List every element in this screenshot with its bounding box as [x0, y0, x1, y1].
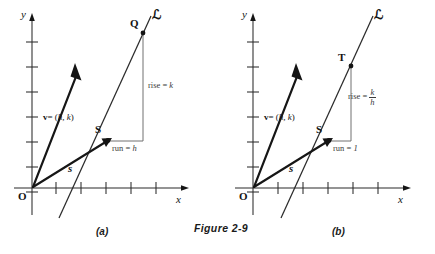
x-axis-b: [235, 182, 411, 194]
rise-annotation-a: rise = k: [148, 80, 173, 90]
x-axis-label-a: x: [175, 193, 181, 205]
rise-annotation-b: rise = kh: [348, 88, 376, 106]
rise-fraction-b: kh: [369, 88, 375, 106]
figure-2-9: y x O ℒ: [0, 0, 435, 254]
origin-label-a: O: [18, 190, 27, 202]
vector-v-b: [254, 63, 303, 187]
line-L-label-b: ℒ: [374, 7, 384, 22]
vector-v-label-b: v= (h, k): [264, 112, 295, 122]
point-T-label-b: T: [338, 51, 346, 63]
x-axis-a: [14, 182, 189, 194]
vector-s-b: [254, 138, 333, 187]
run-annotation-b: run = 1: [333, 143, 358, 153]
point-S-b: [327, 138, 332, 143]
vector-s-label-a: s: [67, 162, 72, 174]
run-annotation-a: run = h: [112, 143, 137, 153]
sublabel-b: (b): [332, 226, 345, 237]
vector-v-label-a: v= (h, k): [43, 112, 74, 122]
point-T-b: [349, 64, 354, 69]
vector-v-a: [33, 63, 82, 187]
point-Q-label-a: Q: [130, 17, 139, 29]
rise-annotation-b-prefix: rise =: [348, 91, 369, 101]
point-Q-a: [141, 31, 146, 36]
vector-s-a: [33, 138, 112, 187]
point-S-label-b: S: [316, 123, 322, 135]
origin-label-b: O: [239, 190, 248, 202]
sublabel-a: (a): [96, 226, 108, 237]
y-axis-label-b: y: [241, 8, 247, 20]
y-axis-label-a: y: [20, 8, 26, 20]
vector-s-label-b: s: [288, 162, 293, 174]
x-axis-label-b: x: [397, 193, 403, 205]
rise-fraction-denominator-b: h: [369, 98, 375, 107]
point-S-label-a: S: [95, 123, 101, 135]
point-S-a: [106, 138, 111, 143]
panel-a-diagram: y x O ℒ: [0, 0, 218, 254]
figure-caption: Figure 2-9: [176, 222, 266, 234]
panel-b-diagram: y x O ℒ: [217, 0, 435, 254]
line-L-label-a: ℒ: [152, 7, 162, 22]
